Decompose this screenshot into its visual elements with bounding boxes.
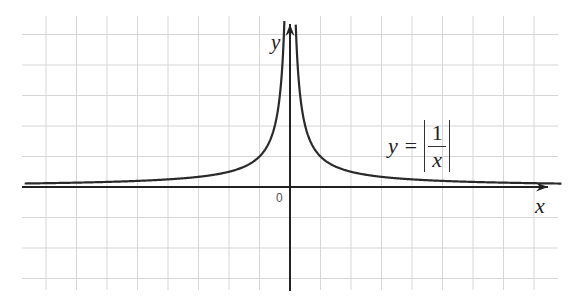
fraction-numerator: 1 (430, 122, 445, 144)
cropped-caption-fragment (100, 0, 104, 6)
x-axis-label: x (535, 193, 545, 219)
y-axis-label: y (271, 30, 280, 55)
origin-label: 0 (276, 191, 283, 205)
curve-left-branch (25, 21, 285, 183)
function-graph (0, 0, 581, 302)
fraction-denominator: x (432, 149, 442, 171)
fraction: 1 x (428, 122, 446, 171)
function-equation-label: y = 1 x (388, 120, 450, 172)
equation-lhs: y = (388, 133, 418, 159)
absolute-value-bars: 1 x (424, 120, 450, 172)
